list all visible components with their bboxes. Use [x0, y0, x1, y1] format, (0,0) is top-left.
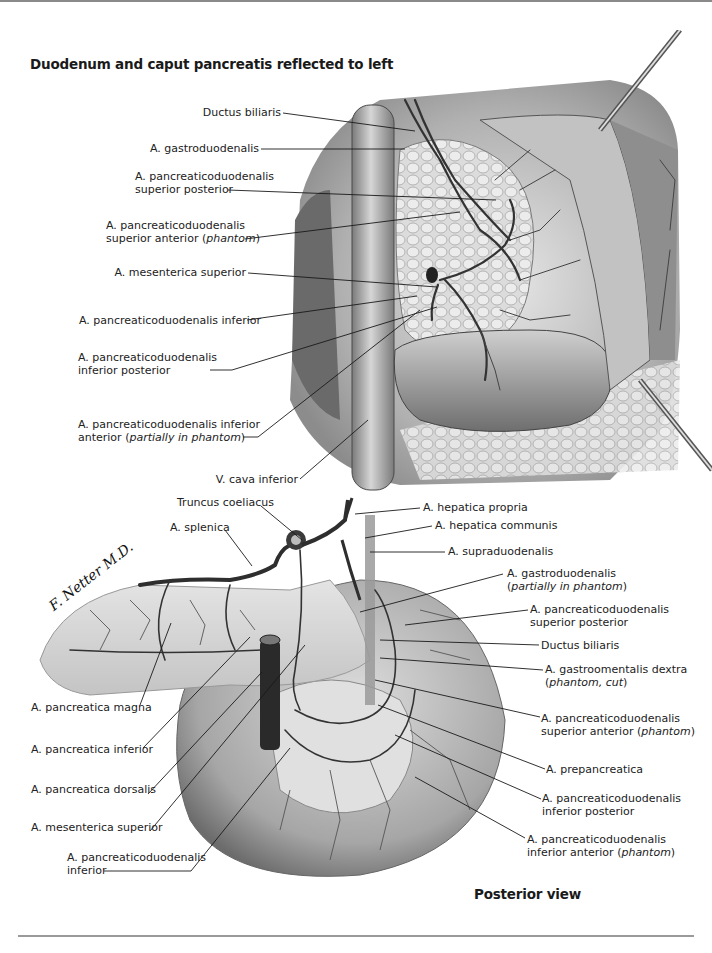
label-a-supraduodenalis: A. supraduodenalis [448, 545, 553, 558]
label-a-pancreatica-inferior: A. pancreatica inferior [31, 743, 153, 756]
top-illustration [280, 30, 712, 500]
label-a-mesenterica-superior: A. mesenterica superior [114, 266, 246, 279]
label-a-hepatica-communis: A. hepatica communis [435, 519, 557, 532]
label-a-gastroduodenalis: A. gastroduodenalis [150, 142, 259, 155]
label-a-gastroduodenalis-posterior-view: A. gastroduodenalis (partially in phanto… [507, 567, 627, 593]
label-a-pd-superior-anterior-posterior-view: A. pancreaticoduodenalis superior anteri… [541, 712, 695, 738]
bottom-rule [18, 935, 694, 937]
label-a-pd-inferior: A. pancreaticoduodenalis inferior [79, 314, 261, 327]
label-a-pd-superior-posterior: A. pancreaticoduodenalis superior poster… [135, 170, 274, 196]
bottom-panel-caption: Posterior view [474, 886, 581, 902]
label-a-pd-inferior-posterior-view: A. pancreaticoduodenalis inferior [67, 851, 206, 877]
label-v-cava-inferior: V. cava inferior [216, 473, 298, 486]
label-a-pd-inferior-posterior-posterior-view: A. pancreaticoduodenalis inferior poster… [542, 792, 681, 818]
label-ductus-biliaris: Ductus biliaris [203, 106, 281, 119]
top-panel-title: Duodenum and caput pancreatis reflected … [30, 56, 393, 72]
label-a-pancreatica-magna: A. pancreatica magna [31, 701, 152, 714]
label-ductus-biliaris-posterior-view: Ductus biliaris [541, 639, 619, 652]
label-a-pd-inferior-posterior: A. pancreaticoduodenalis inferior poster… [78, 351, 217, 377]
top-rule [0, 0, 712, 2]
label-a-pd-inferior-anterior-posterior-view: A. pancreaticoduodenalis inferior anteri… [527, 833, 675, 859]
label-a-gastroomentalis-dextra: A. gastroomentalis dextra (phantom, cut) [545, 663, 687, 689]
label-a-splenica: A. splenica [170, 521, 230, 534]
label-a-mesenterica-superior-posterior-view: A. mesenterica superior [31, 821, 163, 834]
label-a-prepancreatica: A. prepancreatica [546, 763, 643, 776]
label-a-pancreatica-dorsalis: A. pancreatica dorsalis [31, 783, 156, 796]
label-truncus-coeliacus: Truncus coeliacus [177, 496, 274, 509]
label-a-hepatica-propria: A. hepatica propria [423, 501, 528, 514]
label-a-pd-superior-anterior: A. pancreaticoduodenalis superior anteri… [106, 219, 260, 245]
label-a-pd-inferior-anterior: A. pancreaticoduodenalis inferior anteri… [78, 418, 260, 444]
label-a-pd-superior-posterior-posterior-view: A. pancreaticoduodenalis superior poster… [530, 603, 669, 629]
